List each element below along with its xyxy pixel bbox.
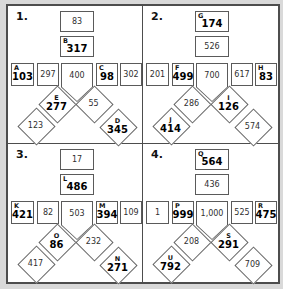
diamond-value: 232 [86,237,101,246]
box-row-4: C 98 [96,63,118,86]
box-row-4: M 394 [96,201,118,224]
box-value: 499 [173,72,194,82]
puzzle-1-cell: 1. 83 B 317 A 103 297 400 C 98 302 [8,6,143,144]
diamond-lower-left: 417 [17,245,54,282]
box-second: L 486 [60,174,94,195]
box-value: 82 [43,208,53,217]
puzzle-number: 4. [151,148,163,161]
diamond-lower-right: 709 [234,246,271,283]
diamond-value: 792 [160,262,181,272]
box-value: 103 [12,72,33,82]
puzzle-number: 1. [16,10,28,23]
box-value: 999 [173,210,194,220]
puzzle-3-cell: 3. 17 L 486 K 421 82 503 M 394 109 [8,144,143,282]
box-row-5: 109 [120,201,142,224]
box-row-4: 525 [231,201,253,224]
box-value: 98 [100,72,114,82]
box-value: 201 [150,70,165,79]
box-second: 436 [195,174,229,195]
box-row-1: 201 [146,63,169,86]
diamond-value: 271 [107,263,128,273]
answer-letter: G [198,13,203,20]
worksheet-grid: 1. 83 B 317 A 103 297 400 C 98 302 [6,4,280,284]
diamond-value: 123 [28,121,43,130]
box-value: 83 [259,72,273,82]
box-value: 617 [234,70,249,79]
box-value: 400 [61,63,93,87]
box-top: G 174 [195,11,229,32]
box-second: B 317 [60,36,94,57]
box-value: 564 [202,157,223,167]
box-value: 1 [155,208,160,217]
box-value: 394 [97,210,118,220]
puzzle-2-cell: 2. G 174 526 201 F 499 700 617 H 83 [143,6,278,144]
diamond-lower-right: D 345 [99,108,136,145]
box-row-2: 82 [37,201,59,224]
box-value: 317 [67,44,88,54]
box-value: 297 [40,70,55,79]
answer-letter: Q [198,151,204,158]
answer-letter: C [99,65,104,72]
diamond-value: 345 [107,125,128,135]
box-top: Q 564 [195,149,229,170]
box-value: 700 [196,63,228,87]
box-value: 421 [12,210,33,220]
box-row-2: P 999 [172,201,194,224]
diamond-value: 414 [160,124,181,134]
box-row-4: 617 [231,63,253,86]
box-row-5: 302 [120,63,142,86]
box-value: 109 [123,208,138,217]
box-second: 526 [195,36,229,57]
answer-letter: P [175,203,180,210]
diamond-lower-left: 123 [17,107,54,144]
box-value: 525 [234,208,249,217]
diamond-lower-left: J 414 [152,107,189,144]
box-top: 83 [60,11,94,32]
box-row-2: F 499 [172,63,194,86]
box-value: 475 [256,210,277,220]
box-value: 83 [72,17,82,26]
box-value: 302 [123,70,138,79]
box-row-1: A 103 [11,63,34,86]
answer-letter: B [63,38,68,45]
puzzle-number: 3. [16,148,28,161]
diamond-lower-left: U 792 [152,245,189,282]
puzzle-number: 2. [151,10,163,23]
answer-letter: K [14,203,19,210]
answer-letter: F [175,65,179,72]
answer-letter: M [99,203,105,210]
box-row-1: 1 [146,201,169,224]
box-value: 174 [202,19,223,29]
box-row-5: H 83 [255,63,277,86]
puzzle-4-cell: 4. Q 564 436 1 P 999 1,000 525 R 475 [143,144,278,282]
box-value: 436 [204,180,219,189]
diamond-value: 709 [245,260,260,269]
box-top: 17 [60,149,94,170]
box-row-1: K 421 [11,201,34,224]
box-value: 17 [72,155,82,164]
diamond-value: 417 [28,259,43,268]
box-value: 503 [61,201,93,225]
diamond-value: 574 [245,122,260,131]
answer-letter: R [258,203,263,210]
diamond-lower-right: N 271 [99,246,136,283]
box-row-5: R 475 [255,201,277,224]
answer-letter: A [14,65,19,72]
answer-letter: L [63,176,67,183]
diamond-value: 55 [88,99,98,108]
box-value: 486 [67,182,88,192]
answer-letter: H [258,65,263,72]
box-value: 1,000 [196,201,228,225]
diamond-lower-right: 574 [234,108,271,145]
box-value: 526 [204,42,219,51]
box-row-2: 297 [37,63,59,86]
